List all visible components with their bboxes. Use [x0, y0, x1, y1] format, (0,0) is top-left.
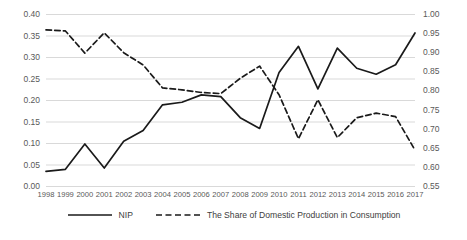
- legend-label-share-of-domestic-production: The Share of Domestic Production in Cons…: [207, 210, 400, 220]
- series-line-share-of-domestic-production: [46, 30, 415, 150]
- legend-item-share-of-domestic-production[interactable]: The Share of Domestic Production in Cons…: [155, 210, 400, 220]
- y-right-tick-label: 0.90: [423, 48, 463, 57]
- x-tick-label: 2017: [403, 191, 427, 199]
- y-left-tick-label: 0.20: [4, 96, 40, 105]
- y-left-tick-label: 0.10: [4, 139, 40, 148]
- y-right-tick-label: 0.80: [423, 86, 463, 95]
- series-line-nip: [46, 33, 415, 171]
- y-left-tick-label: 0.40: [4, 10, 40, 19]
- line-chart: 0.000.050.100.150.200.250.300.350.40 0.5…: [0, 0, 467, 240]
- y-right-tick-label: 0.95: [423, 29, 463, 38]
- y-left-tick-label: 0.15: [4, 118, 40, 127]
- legend-swatch-solid: [67, 210, 113, 220]
- chart-legend: NIP The Share of Domestic Production in …: [0, 210, 467, 220]
- y-left-tick-label: 0.05: [4, 161, 40, 170]
- y-right-tick-label: 0.65: [423, 144, 463, 153]
- y-right-tick-label: 0.55: [423, 182, 463, 191]
- legend-item-nip[interactable]: NIP: [67, 210, 133, 220]
- y-right-tick-label: 0.85: [423, 67, 463, 76]
- y-left-tick-label: 0.25: [4, 75, 40, 84]
- legend-label-nip: NIP: [119, 210, 133, 220]
- y-left-tick-label: 0.00: [4, 182, 40, 191]
- gridlines: [46, 15, 415, 187]
- y-right-tick-label: 1.00: [423, 10, 463, 19]
- y-right-tick-label: 0.60: [423, 163, 463, 172]
- plot-area: [0, 0, 467, 240]
- y-left-tick-label: 0.30: [4, 53, 40, 62]
- y-left-tick-label: 0.35: [4, 32, 40, 41]
- y-right-tick-label: 0.70: [423, 125, 463, 134]
- y-right-tick-label: 0.75: [423, 106, 463, 115]
- legend-swatch-dashed: [155, 210, 201, 220]
